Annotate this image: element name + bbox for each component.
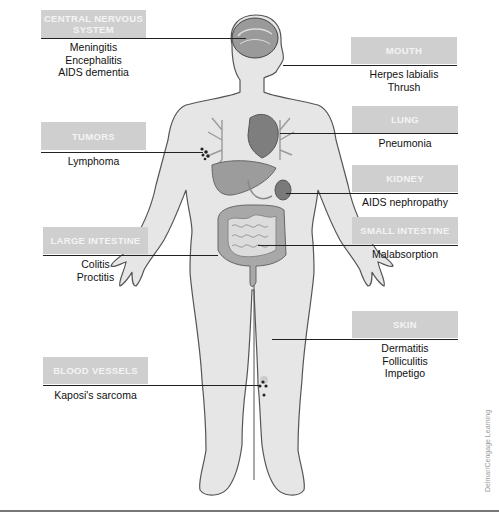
bottom-rule bbox=[0, 510, 499, 512]
condition-aids-nephropathy: AIDS nephropathy bbox=[352, 196, 458, 209]
skin-conditions: Dermatitis Folliculitis Impetigo bbox=[352, 342, 458, 380]
blood-vessels-title-box: BLOOD VESSELS bbox=[43, 357, 148, 384]
kidney-conditions: AIDS nephropathy bbox=[352, 196, 458, 209]
kidney-leader-line bbox=[286, 193, 458, 194]
skin-title: SKIN bbox=[393, 319, 417, 330]
lung-title-box: LUNG bbox=[352, 106, 458, 133]
blood-vessels-leader-line bbox=[43, 385, 261, 386]
lung-leader-line bbox=[280, 133, 458, 134]
small-intestine-title: SMALL INTESTINE bbox=[360, 225, 449, 236]
condition-herpes-labialis: Herpes labialis bbox=[351, 68, 457, 81]
condition-dermatitis: Dermatitis bbox=[352, 342, 458, 355]
condition-impetigo: Impetigo bbox=[352, 367, 458, 380]
condition-malabsorption: Malabsorption bbox=[352, 248, 458, 261]
mouth-title: MOUTH bbox=[386, 45, 422, 56]
blood-vessels-conditions: Kaposi's sarcoma bbox=[43, 389, 148, 402]
tumors-leader-line bbox=[41, 152, 203, 153]
small-intestine-shape bbox=[228, 215, 276, 257]
lung-conditions: Pneumonia bbox=[352, 137, 458, 150]
lung-title: LUNG bbox=[391, 114, 419, 125]
kidney-shape bbox=[275, 180, 291, 200]
cns-leader-line bbox=[41, 38, 246, 39]
cns-title-line1: CENTRAL NERVOUS bbox=[44, 13, 143, 24]
condition-kaposis-sarcoma: Kaposi's sarcoma bbox=[43, 389, 148, 402]
condition-thrush: Thrush bbox=[351, 81, 457, 94]
condition-aids-dementia: AIDS dementia bbox=[41, 66, 146, 79]
condition-colitis: Colitis bbox=[43, 258, 148, 271]
condition-folliculitis: Folliculitis bbox=[352, 355, 458, 368]
tumors-conditions: Lymphoma bbox=[41, 155, 146, 168]
large-intestine-leader-line bbox=[43, 255, 218, 256]
small-intestine-leader-line bbox=[258, 245, 458, 246]
cns-title-line2: SYSTEM bbox=[73, 24, 114, 35]
cns-conditions: Meningitis Encephalitis AIDS dementia bbox=[41, 41, 146, 79]
condition-proctitis: Proctitis bbox=[43, 271, 148, 284]
kidney-title: KIDNEY bbox=[386, 173, 424, 184]
image-credit: Delmar/Cengage Learning bbox=[484, 410, 491, 492]
large-intestine-conditions: Colitis Proctitis bbox=[43, 258, 148, 283]
condition-meningitis: Meningitis bbox=[41, 41, 146, 54]
condition-lymphoma: Lymphoma bbox=[41, 155, 146, 168]
small-intestine-title-box: SMALL INTESTINE bbox=[352, 217, 458, 244]
kidney-title-box: KIDNEY bbox=[352, 165, 458, 192]
large-intestine-title-box: LARGE INTESTINE bbox=[43, 227, 148, 254]
condition-pneumonia: Pneumonia bbox=[352, 137, 458, 150]
mouth-title-box: MOUTH bbox=[351, 37, 457, 64]
mouth-conditions: Herpes labialis Thrush bbox=[351, 68, 457, 93]
mouth-leader-line bbox=[283, 65, 457, 66]
skin-leader-line bbox=[272, 339, 458, 340]
large-intestine-title: LARGE INTESTINE bbox=[50, 235, 140, 246]
cns-title-box: CENTRAL NERVOUS SYSTEM bbox=[41, 10, 146, 38]
condition-encephalitis: Encephalitis bbox=[41, 54, 146, 67]
tumors-title-box: TUMORS bbox=[41, 122, 146, 150]
blood-vessels-title: BLOOD VESSELS bbox=[53, 365, 138, 376]
skin-title-box: SKIN bbox=[352, 311, 458, 338]
small-intestine-conditions: Malabsorption bbox=[352, 248, 458, 261]
tumors-title: TUMORS bbox=[72, 131, 115, 142]
